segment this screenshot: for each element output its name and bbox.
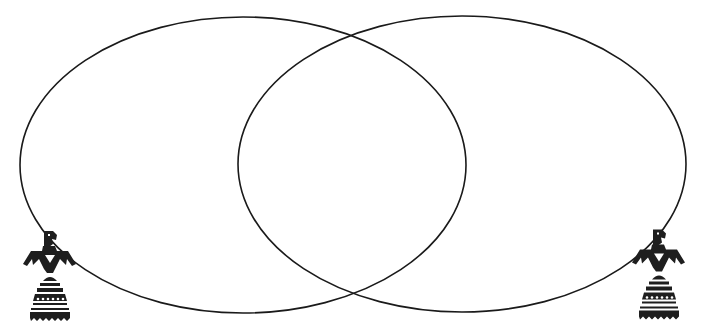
right-set-ellipse (238, 16, 686, 312)
thunderbird-icon (22, 229, 78, 323)
venn-diagram (0, 0, 704, 328)
left-set-ellipse (20, 17, 466, 313)
thunderbird-icon (631, 227, 687, 322)
